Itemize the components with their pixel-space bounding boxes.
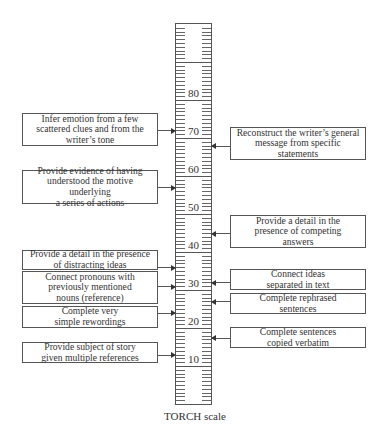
minor-tick — [176, 389, 185, 390]
minor-tick — [202, 104, 211, 105]
arrow-left-icon — [212, 146, 230, 147]
minor-tick — [176, 157, 185, 158]
minor-tick — [176, 47, 185, 48]
minor-tick — [176, 305, 185, 306]
minor-tick — [176, 358, 185, 359]
minor-tick — [202, 142, 211, 143]
scale-label: 60 — [185, 164, 202, 175]
minor-tick — [202, 271, 211, 272]
arrow-right-icon — [158, 267, 175, 268]
minor-tick — [176, 165, 185, 166]
minor-tick — [176, 73, 185, 74]
minor-tick — [176, 92, 185, 93]
minor-tick — [176, 210, 185, 211]
minor-tick — [202, 54, 211, 55]
minor-tick — [176, 347, 185, 348]
minor-tick — [202, 89, 211, 90]
minor-tick — [202, 146, 211, 147]
minor-tick — [176, 77, 185, 78]
minor-tick — [176, 385, 185, 386]
minor-tick — [176, 130, 185, 131]
minor-tick — [176, 28, 185, 29]
skill-box-right: Complete sentences copied verbatim — [230, 327, 366, 348]
arrow-right-icon — [158, 187, 175, 188]
minor-tick — [176, 142, 185, 143]
scale-label: 40 — [185, 240, 202, 251]
minor-tick — [176, 199, 185, 200]
minor-tick — [202, 347, 211, 348]
minor-tick — [176, 149, 185, 150]
minor-tick — [202, 165, 211, 166]
minor-tick — [176, 184, 185, 185]
minor-tick — [202, 108, 211, 109]
arrow-right-icon — [158, 313, 175, 314]
minor-tick — [202, 305, 211, 306]
minor-tick — [202, 134, 211, 135]
skill-box-left: Infer emotion from a few scattered clues… — [22, 113, 158, 146]
minor-tick — [202, 389, 211, 390]
minor-tick — [202, 313, 211, 314]
minor-tick — [176, 43, 185, 44]
minor-tick — [202, 222, 211, 223]
minor-tick — [202, 351, 211, 352]
minor-tick — [176, 298, 185, 299]
minor-tick — [202, 157, 211, 158]
arrow-left-icon — [212, 338, 230, 339]
skill-box-right: Complete rephrased sentences — [230, 293, 366, 314]
minor-tick — [176, 244, 185, 245]
skill-box-left: Connect pronouns with previously mention… — [22, 271, 158, 304]
scale-caption: TORCH scale — [150, 410, 240, 422]
minor-tick — [202, 381, 211, 382]
minor-tick — [176, 153, 185, 154]
minor-tick — [202, 206, 211, 207]
minor-tick — [202, 339, 211, 340]
minor-tick — [202, 85, 211, 86]
minor-tick — [176, 336, 185, 337]
minor-tick — [176, 313, 185, 314]
minor-tick — [176, 233, 185, 234]
minor-tick — [176, 279, 185, 280]
minor-tick — [176, 286, 185, 287]
minor-tick — [202, 168, 211, 169]
skill-box-left: Provide subject of story given multiple … — [22, 342, 158, 363]
minor-tick — [176, 309, 185, 310]
minor-tick — [176, 191, 185, 192]
minor-tick — [202, 111, 211, 112]
minor-tick — [202, 184, 211, 185]
minor-tick — [202, 362, 211, 363]
minor-tick — [176, 248, 185, 249]
minor-tick — [202, 77, 211, 78]
minor-tick — [202, 149, 211, 150]
arrow-right-icon — [158, 355, 175, 356]
minor-tick — [202, 96, 211, 97]
skill-box-left: Provide a detail in the presence of dist… — [22, 250, 158, 270]
minor-tick — [202, 358, 211, 359]
minor-tick — [202, 51, 211, 52]
minor-tick — [176, 229, 185, 230]
minor-tick — [202, 172, 211, 173]
minor-tick — [202, 58, 211, 59]
minor-tick — [176, 339, 185, 340]
minor-tick — [202, 180, 211, 181]
scale-label: 20 — [185, 316, 202, 327]
minor-tick — [176, 332, 185, 333]
minor-tick — [202, 385, 211, 386]
minor-tick — [176, 35, 185, 36]
minor-tick — [202, 191, 211, 192]
minor-tick — [176, 263, 185, 264]
minor-tick — [202, 279, 211, 280]
minor-tick — [176, 294, 185, 295]
minor-tick — [176, 203, 185, 204]
minor-tick — [202, 275, 211, 276]
minor-tick — [202, 229, 211, 230]
major-tick — [176, 138, 211, 139]
minor-tick — [202, 119, 211, 120]
minor-tick — [202, 396, 211, 397]
major-tick — [176, 100, 211, 101]
minor-tick — [202, 130, 211, 131]
minor-tick — [202, 92, 211, 93]
minor-tick — [176, 66, 185, 67]
minor-tick — [176, 123, 185, 124]
minor-tick — [176, 393, 185, 394]
minor-tick — [176, 222, 185, 223]
